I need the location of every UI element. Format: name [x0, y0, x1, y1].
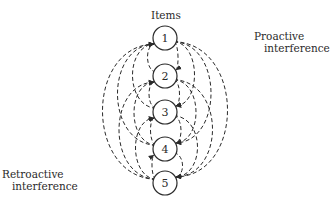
item-number: 3: [162, 106, 169, 119]
item-number: 4: [162, 143, 169, 156]
item-node-1: 1: [153, 26, 177, 50]
proactive-arrow: [174, 116, 181, 143]
item-node-2: 2: [153, 64, 177, 88]
item-number: 1: [162, 32, 169, 45]
interference-diagram: 12345: [0, 0, 330, 204]
proactive-arrow: [174, 42, 228, 177]
item-node-5: 5: [153, 171, 177, 195]
item-number: 2: [162, 70, 169, 83]
item-nodes: 12345: [153, 26, 177, 195]
retroactive-arrow: [147, 44, 156, 72]
item-node-4: 4: [153, 137, 177, 161]
item-node-3: 3: [153, 100, 177, 124]
retroactive-arrow: [102, 44, 156, 179]
item-number: 5: [162, 177, 169, 190]
